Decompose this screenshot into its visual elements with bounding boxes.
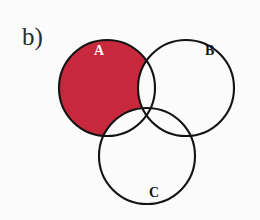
set-label-c: C xyxy=(149,186,159,200)
panel-label: b) xyxy=(22,24,43,49)
set-label-a: A xyxy=(94,44,104,58)
venn-diagram-figure: b) A B C xyxy=(0,0,260,220)
set-label-b: B xyxy=(205,44,214,58)
